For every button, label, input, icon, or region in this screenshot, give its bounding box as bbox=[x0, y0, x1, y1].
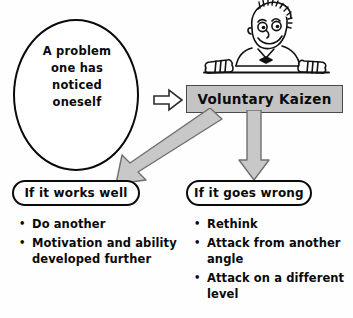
arrow-to-goes-wrong bbox=[238, 110, 270, 182]
problem-circle-label: A problem one has noticed oneself bbox=[18, 43, 136, 111]
voluntary-kaizen-label: Voluntary Kaizen bbox=[197, 91, 331, 107]
list-item: Motivation and ability developed further bbox=[18, 235, 178, 267]
list-item: Attack on a different level bbox=[193, 270, 351, 302]
kaizen-diagram: A problem one has noticed oneself bbox=[0, 0, 353, 318]
goes-wrong-bullet-list: Rethink Attack from another angle Attack… bbox=[193, 216, 351, 305]
pill-works-well: If it works well bbox=[12, 180, 140, 206]
arrow-to-works-well bbox=[104, 108, 224, 188]
smiling-man-illustration bbox=[196, 0, 336, 86]
pill-goes-wrong: If it goes wrong bbox=[186, 180, 312, 206]
works-well-bullet-list: Do another Motivation and ability develo… bbox=[18, 216, 178, 270]
list-item: Do another bbox=[18, 216, 178, 232]
pill-works-well-label: If it works well bbox=[24, 186, 127, 200]
list-item: Attack from another angle bbox=[193, 235, 351, 267]
list-item: Rethink bbox=[193, 216, 351, 232]
pill-goes-wrong-label: If it goes wrong bbox=[194, 186, 304, 200]
